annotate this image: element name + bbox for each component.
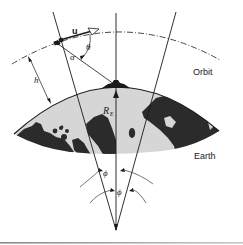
velocity-label: u bbox=[72, 26, 78, 36]
phi-upper-label: ϕ bbox=[103, 168, 108, 178]
center-arrowhead-icon bbox=[114, 224, 118, 231]
velocity-vector-arrow bbox=[60, 28, 99, 40]
altitude-label: h bbox=[34, 75, 39, 85]
phi-upper-arc bbox=[80, 168, 153, 187]
ground-station-icon bbox=[102, 80, 130, 88]
theta-label: θ bbox=[86, 42, 91, 52]
earth-radius-label: R bbox=[102, 105, 109, 116]
altitude-dimension bbox=[28, 56, 51, 104]
earth-radius-subscript: E bbox=[110, 111, 114, 117]
theta-arrowhead-icon bbox=[80, 55, 85, 60]
alpha-label: α bbox=[70, 52, 75, 62]
earth-label: Earth bbox=[194, 151, 216, 161]
orbit-label: Orbit bbox=[193, 67, 213, 77]
orbit-geometry-diagram: u θ α h R E Orbit Earth ϕ ϕ bbox=[0, 0, 243, 245]
phi-lower-label: ϕ bbox=[117, 187, 122, 197]
bottom-rule bbox=[0, 242, 243, 244]
